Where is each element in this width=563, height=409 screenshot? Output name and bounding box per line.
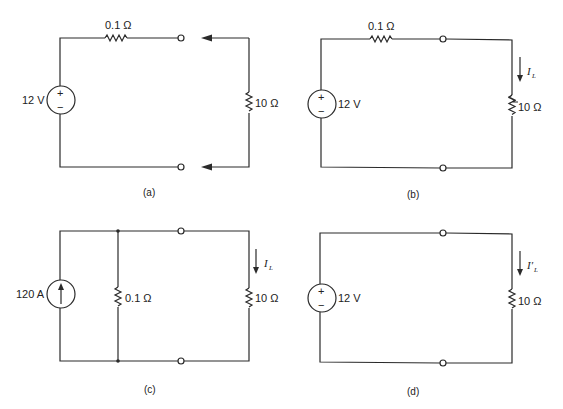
terminal [440, 165, 446, 171]
terminal [178, 35, 184, 41]
wire [210, 113, 249, 167]
terminal [440, 360, 446, 366]
source-label: 12 V [338, 98, 361, 110]
caption-c: (c) [144, 384, 156, 395]
load-resistor-label: 10 Ω [255, 292, 279, 304]
shunt-resistor-label: 0.1 Ω [125, 292, 152, 304]
load-resistor [246, 92, 252, 111]
wire [446, 116, 512, 168]
caption-a: (a) [143, 187, 155, 198]
current-subscript: L [268, 264, 273, 272]
terminal [440, 230, 446, 236]
wire [60, 231, 178, 280]
arrow-down-icon [517, 269, 523, 276]
terminal [178, 358, 184, 364]
load-resistor-label: 10 Ω [255, 97, 279, 109]
current-subscript: L [531, 72, 536, 80]
arrow-down-icon [517, 75, 523, 82]
wire [446, 233, 512, 289]
panel-c: 0.1 Ω 120 A 10 Ω I L (c) [16, 228, 279, 395]
wire [60, 38, 105, 86]
load-resistor [246, 288, 252, 307]
wire [60, 308, 178, 361]
minus-sign: − [318, 299, 324, 311]
series-resistor-label: 0.1 Ω [105, 19, 132, 31]
series-resistor-label: 0.1 Ω [368, 20, 395, 32]
panel-a: + − 12 V 0.1 Ω 10 Ω (a) [22, 19, 279, 198]
arrow-left-icon [201, 164, 212, 171]
panel-d: + − 12 V 10 Ω I′ L (d) [308, 230, 542, 397]
caption-b: (b) [407, 189, 419, 200]
load-resistor [509, 95, 518, 115]
terminal [178, 228, 184, 234]
source-label: 120 A [16, 288, 45, 300]
wire [321, 118, 440, 168]
terminal [178, 164, 184, 170]
series-resistor [105, 35, 127, 41]
wire [321, 39, 370, 90]
plus-sign: + [57, 87, 63, 99]
minus-sign: − [57, 101, 63, 113]
plus-sign: + [318, 285, 324, 297]
circuit-figure: + − 12 V 0.1 Ω 10 Ω (a) + − 12 V 0.1 Ω 1… [0, 0, 563, 409]
shunt-resistor [115, 287, 121, 306]
minus-sign: − [318, 105, 324, 117]
load-resistor [509, 289, 515, 308]
series-resistor [370, 36, 392, 42]
wire [446, 39, 512, 95]
wire [60, 114, 178, 167]
arrow-up-icon [58, 283, 64, 290]
wire [184, 231, 249, 288]
source-label: 12 V [338, 292, 361, 304]
arrow-left-icon [201, 35, 212, 42]
arrow-down-icon [253, 267, 259, 274]
terminal [440, 36, 446, 42]
current-subscript: L [533, 266, 538, 274]
wire [320, 312, 440, 363]
wire [184, 308, 249, 361]
wire [320, 233, 440, 284]
wire [446, 309, 512, 363]
source-label: 12 V [22, 94, 45, 106]
panel-b: + − 12 V 0.1 Ω 10 Ω I L (b) [308, 20, 542, 200]
load-resistor-label: 10 Ω [518, 101, 542, 113]
current-label: I′ [526, 259, 534, 271]
caption-d: (d) [407, 386, 419, 397]
load-resistor-label: 10 Ω [518, 295, 542, 307]
plus-sign: + [318, 91, 324, 103]
